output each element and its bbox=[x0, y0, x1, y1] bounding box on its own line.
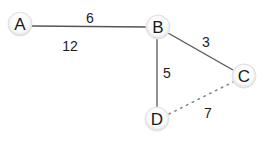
node-b-label: B bbox=[152, 18, 163, 37]
edge-label-b-c: 3 bbox=[202, 34, 210, 50]
edge-a-b bbox=[32, 26, 146, 27]
edge-d-c-dotted bbox=[169, 82, 233, 114]
node-a-label: A bbox=[14, 15, 26, 34]
edge-label-b-d: 5 bbox=[163, 65, 171, 81]
node-c-label: C bbox=[238, 67, 250, 86]
graph-diagram: 6 3 5 7 12 A B C D bbox=[0, 0, 271, 142]
edge-b-c bbox=[168, 33, 233, 70]
floating-label-12: 12 bbox=[62, 38, 78, 54]
node-b[interactable]: B bbox=[146, 15, 170, 39]
node-d-label: D bbox=[151, 110, 163, 129]
edge-label-a-b: 6 bbox=[86, 10, 94, 26]
node-c[interactable]: C bbox=[232, 64, 256, 88]
edge-label-d-c: 7 bbox=[204, 105, 212, 121]
node-a[interactable]: A bbox=[8, 12, 32, 36]
node-d[interactable]: D bbox=[145, 107, 169, 131]
